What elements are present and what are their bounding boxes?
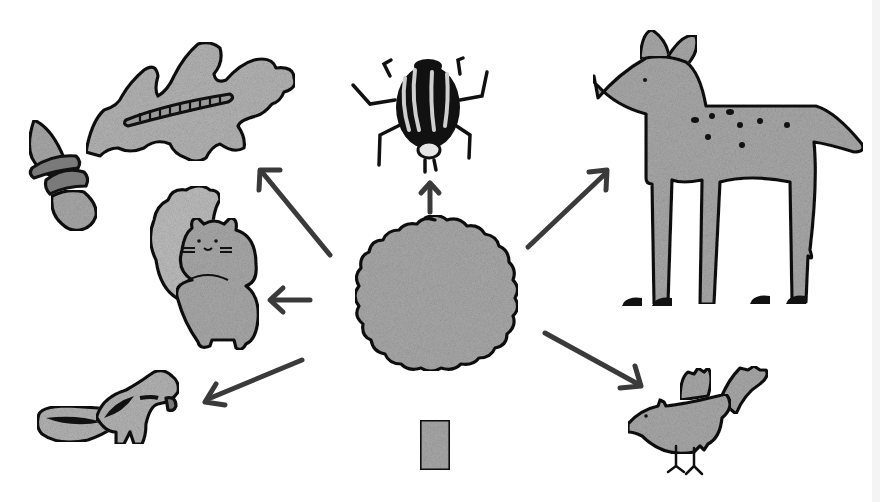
beetle-icon — [353, 58, 487, 172]
squirrel-icon — [150, 186, 258, 349]
bird-icon — [628, 366, 767, 474]
arrow-to-squirrel — [270, 288, 310, 312]
oak-tree-icon — [355, 215, 518, 470]
oak-leaf-icon — [86, 43, 295, 161]
arrow-to-bird — [545, 333, 641, 388]
arrow-to-oak-leaf — [259, 170, 330, 255]
acorns-icon — [29, 120, 96, 230]
food-web-diagram — [0, 0, 880, 502]
arrow-to-deer — [528, 170, 607, 247]
arrow-to-chipmunk — [205, 360, 302, 405]
diagram-canvas — [0, 0, 880, 502]
chipmunk-icon — [38, 371, 179, 444]
deer-icon — [594, 30, 864, 306]
arrow-to-beetle — [421, 183, 439, 212]
